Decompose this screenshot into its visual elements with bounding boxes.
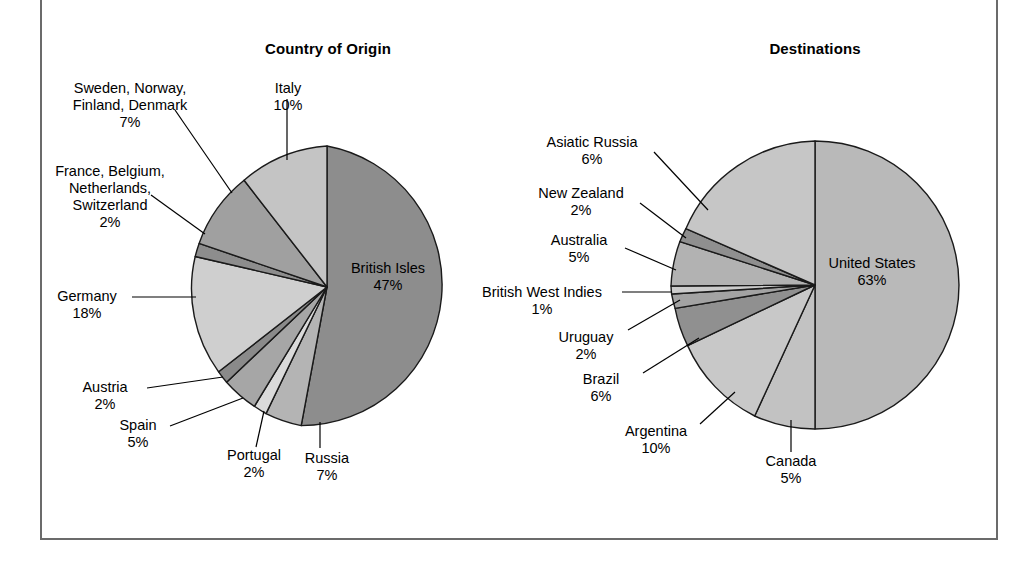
- leader-line-portugal: [256, 411, 264, 447]
- label-argentina-name: Argentina: [608, 423, 704, 440]
- label-austria-name: Austria: [65, 379, 145, 396]
- label-italy-pct: 10%: [255, 97, 321, 114]
- leader-line-uruguay: [628, 300, 680, 330]
- label-australia-pct: 5%: [534, 249, 624, 266]
- label-russia-pct: 7%: [290, 467, 364, 484]
- label-asiatic-russia-name: Asiatic Russia: [528, 134, 656, 151]
- label-france-line2: Netherlands,: [15, 180, 205, 197]
- label-british-west-indies-name: British West Indies: [462, 284, 622, 301]
- label-germany-pct: 18%: [42, 305, 132, 322]
- label-france-belgium-netherlands-switzerland: France, Belgium, Netherlands, Switzerlan…: [15, 163, 205, 231]
- label-brazil-name: Brazil: [565, 371, 637, 388]
- leader-line-austria: [147, 377, 223, 388]
- label-new-zealand: New Zealand 2%: [523, 185, 639, 219]
- label-austria: Austria 2%: [65, 379, 145, 413]
- label-spain: Spain 5%: [105, 417, 171, 451]
- label-united-states-name: United States: [810, 255, 934, 272]
- label-germany-name: Germany: [42, 288, 132, 305]
- label-spain-name: Spain: [105, 417, 171, 434]
- label-brazil-pct: 6%: [565, 388, 637, 405]
- label-italy-name: Italy: [255, 80, 321, 97]
- label-uruguay: Uruguay 2%: [543, 329, 629, 363]
- label-uruguay-pct: 2%: [543, 346, 629, 363]
- label-germany: Germany 18%: [42, 288, 132, 322]
- figure-root: Country of Origin Destinations: [0, 0, 1024, 563]
- label-canada-name: Canada: [752, 453, 830, 470]
- label-british-west-indies-pct: 1%: [462, 301, 622, 318]
- label-british-isles: British Isles 47%: [333, 260, 443, 294]
- leader-line-asiatic-russia: [654, 152, 708, 210]
- label-france-pct: 2%: [15, 214, 205, 231]
- label-british-isles-name: British Isles: [333, 260, 443, 277]
- label-canada: Canada 5%: [752, 453, 830, 487]
- label-sweden-line2: Finland, Denmark: [30, 97, 230, 114]
- label-uruguay-name: Uruguay: [543, 329, 629, 346]
- label-sweden-line1: Sweden, Norway,: [30, 80, 230, 97]
- label-russia: Russia 7%: [290, 450, 364, 484]
- label-asiatic-russia: Asiatic Russia 6%: [528, 134, 656, 168]
- label-argentina: Argentina 10%: [608, 423, 704, 457]
- label-portugal-name: Portugal: [208, 447, 300, 464]
- label-spain-pct: 5%: [105, 434, 171, 451]
- label-france-line1: France, Belgium,: [15, 163, 205, 180]
- leader-line-brazil: [643, 338, 699, 373]
- label-sweden-norway-finland-denmark: Sweden, Norway, Finland, Denmark 7%: [30, 80, 230, 131]
- label-austria-pct: 2%: [65, 396, 145, 413]
- label-united-states: United States 63%: [810, 255, 934, 289]
- label-canada-pct: 5%: [752, 470, 830, 487]
- label-british-isles-pct: 47%: [333, 277, 443, 294]
- label-portugal: Portugal 2%: [208, 447, 300, 481]
- leader-line-new-zealand: [640, 203, 686, 238]
- label-new-zealand-name: New Zealand: [523, 185, 639, 202]
- label-united-states-pct: 63%: [810, 272, 934, 289]
- label-brazil: Brazil 6%: [565, 371, 637, 405]
- label-sweden-pct: 7%: [30, 114, 230, 131]
- label-portugal-pct: 2%: [208, 464, 300, 481]
- leader-line-argentina: [700, 392, 735, 424]
- leader-line-spain: [170, 398, 243, 426]
- leader-line-australia: [625, 248, 676, 270]
- label-british-west-indies: British West Indies 1%: [462, 284, 622, 318]
- label-russia-name: Russia: [290, 450, 364, 467]
- label-australia-name: Australia: [534, 232, 624, 249]
- label-argentina-pct: 10%: [608, 440, 704, 457]
- label-australia: Australia 5%: [534, 232, 624, 266]
- label-italy: Italy 10%: [255, 80, 321, 114]
- label-new-zealand-pct: 2%: [523, 202, 639, 219]
- label-asiatic-russia-pct: 6%: [528, 151, 656, 168]
- label-france-line3: Switzerland: [15, 197, 205, 214]
